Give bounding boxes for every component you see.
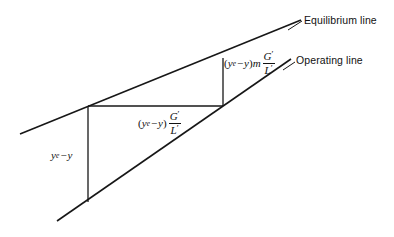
minus-sign: − bbox=[151, 118, 157, 129]
minus-sign: − bbox=[60, 150, 66, 161]
slanted-step-expression: (ye−y)mG′L′ bbox=[224, 50, 275, 77]
ye-subscript: e bbox=[233, 60, 236, 68]
g-over-l-fraction: G′L′ bbox=[263, 50, 275, 77]
fraction-denominator: L′ bbox=[170, 124, 180, 137]
denominator-prime: ′ bbox=[177, 123, 179, 133]
ye-subscript: e bbox=[56, 152, 59, 160]
vertical-driving-force-expression: ye−y bbox=[51, 150, 72, 161]
slanted-step-label: (ye−y)mG′L′ bbox=[224, 50, 275, 77]
ye-subscript: e bbox=[147, 120, 150, 128]
close-paren: ) bbox=[163, 118, 167, 129]
fraction-denominator: L′ bbox=[264, 64, 274, 77]
g-over-l-fraction: G′L′ bbox=[169, 110, 181, 137]
horizontal-step-expression: (ye−y)G′L′ bbox=[138, 110, 181, 137]
numerator-prime: ′ bbox=[272, 49, 274, 59]
operating-line-label: Operating line bbox=[296, 55, 363, 66]
diagram-figure: Equilibrium line Operating line ye−y (ye… bbox=[0, 0, 394, 237]
minus-sign: − bbox=[237, 58, 243, 69]
diagram-canvas bbox=[0, 0, 394, 237]
numerator-symbol: G bbox=[264, 50, 272, 62]
numerator-prime: ′ bbox=[178, 109, 180, 119]
denominator-prime: ′ bbox=[271, 63, 273, 73]
numerator-symbol: G bbox=[170, 110, 178, 122]
slope-symbol: m bbox=[253, 58, 261, 69]
fraction-numerator: G′ bbox=[169, 110, 181, 123]
horizontal-step-label: (ye−y)G′L′ bbox=[138, 110, 181, 137]
y-var: y bbox=[67, 150, 72, 161]
equilibrium-line-label: Equilibrium line bbox=[304, 15, 377, 26]
fraction-numerator: G′ bbox=[263, 50, 275, 63]
vertical-driving-force-label: ye−y bbox=[51, 146, 72, 162]
